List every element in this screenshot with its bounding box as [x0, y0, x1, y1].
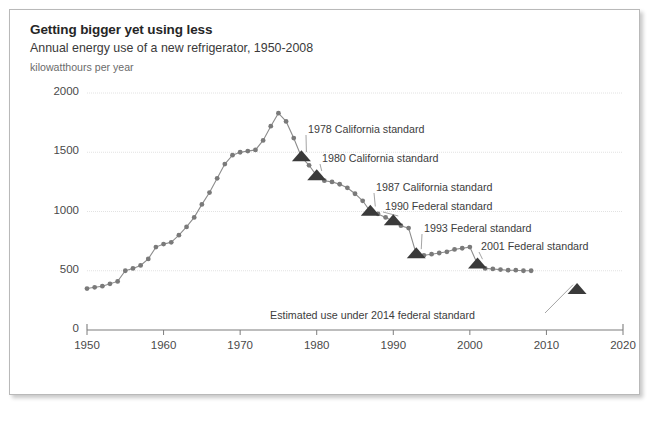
- annotation-label: 1990 Federal standard: [385, 200, 493, 212]
- x-tick-label: 2020: [600, 339, 646, 351]
- y-tick-label: 2000: [33, 85, 79, 97]
- x-tick-label: 1990: [370, 339, 416, 351]
- x-tick-label: 2010: [523, 339, 569, 351]
- annotation-label: 1987 California standard: [376, 181, 492, 193]
- annotation-label: Estimated use under 2014 federal standar…: [270, 309, 475, 321]
- line-chart-plot: [0, 0, 660, 421]
- x-tick-label: 1970: [217, 339, 263, 351]
- axis-lines: [87, 324, 623, 330]
- annotation-label: 1993 Federal standard: [424, 222, 532, 234]
- x-tick-label: 1960: [141, 339, 187, 351]
- x-tick-label: 1980: [294, 339, 340, 351]
- x-tick-label: 2000: [447, 339, 493, 351]
- y-tick-label: 1500: [33, 144, 79, 156]
- y-tick-label: 0: [33, 322, 79, 334]
- page-canvas: Getting bigger yet using less Annual ene…: [0, 0, 660, 421]
- y-tick-label: 1000: [33, 204, 79, 216]
- y-tick-label: 500: [33, 263, 79, 275]
- x-tick-label: 1950: [64, 339, 110, 351]
- annotation-label: 2001 Federal standard: [481, 240, 589, 252]
- annotation-label: 1978 California standard: [308, 123, 424, 135]
- annotation-label: 1980 California standard: [322, 152, 438, 164]
- axis-ticks: [87, 330, 623, 335]
